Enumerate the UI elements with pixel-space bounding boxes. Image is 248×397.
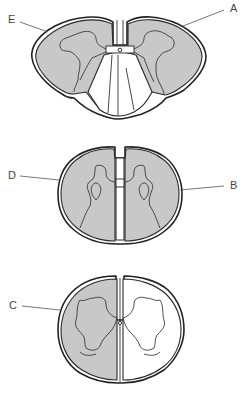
leader-line-c bbox=[22, 306, 60, 310]
spinal-cord-lesion-diagram: E A D B C bbox=[0, 0, 248, 397]
section-bottom-central-canal bbox=[118, 321, 121, 324]
label-a: A bbox=[230, 3, 237, 14]
label-d: D bbox=[8, 170, 16, 181]
section-middle-midline-white bbox=[116, 158, 124, 240]
section-top bbox=[32, 17, 206, 119]
section-middle bbox=[58, 147, 182, 244]
label-e: E bbox=[8, 14, 15, 25]
label-c: C bbox=[9, 300, 17, 311]
leader-line-d bbox=[20, 176, 59, 180]
section-bottom bbox=[58, 276, 184, 383]
section-top-central-canal bbox=[118, 48, 122, 52]
leader-line-b bbox=[180, 186, 224, 190]
section-middle-commissure bbox=[116, 179, 124, 187]
leader-line-e bbox=[20, 22, 48, 32]
leader-line-a bbox=[183, 10, 224, 26]
diagram-canvas bbox=[0, 0, 248, 397]
label-b: B bbox=[230, 180, 237, 191]
